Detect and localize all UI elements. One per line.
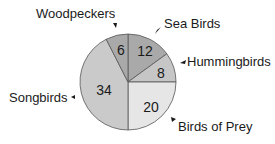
arrow-songbirds-icon [71,95,75,99]
value-hummingbirds: 8 [157,65,165,81]
value-birds-of-prey: 20 [143,99,159,115]
arrow-birds-of-prey-icon [171,117,176,122]
label-sea-birds: Sea Birds [164,17,220,31]
value-songbirds: 34 [96,82,112,98]
value-sea-birds: 12 [137,43,153,59]
arrow-sea-birds-icon [155,27,161,34]
value-woodpeckers: 6 [117,42,125,58]
arrow-hummingbirds-icon [180,60,186,64]
label-songbirds: Songbirds [9,91,68,105]
label-birds-of-prey: Birds of Prey [178,120,252,134]
label-woodpeckers: Woodpeckers [36,7,115,21]
arrow-woodpeckers-icon [113,23,117,28]
pie-chart: 6 12 8 20 34 Woodpeckers Sea Birds Hummi… [0,0,275,144]
label-hummingbirds: Hummingbirds [187,55,271,69]
